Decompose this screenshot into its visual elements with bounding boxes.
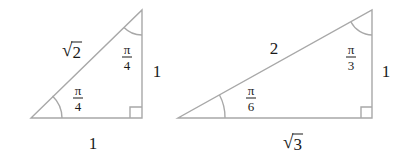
right-angle-marker-2 <box>361 107 372 118</box>
angle-arc-bottom-left-1 <box>53 96 63 118</box>
angle-arc-bottom-left-2 <box>220 95 226 118</box>
vertical-side-label-1: 1 <box>153 63 162 80</box>
hypotenuse-label-2: 2 <box>270 40 279 57</box>
hypotenuse-label-1: √2 <box>62 40 82 61</box>
right-angle-marker-1 <box>130 107 142 118</box>
vertical-side-label-2: 1 <box>382 63 391 80</box>
angle-label-bottom-left-2: π 6 <box>246 84 256 113</box>
base-label-2: √3 <box>283 132 303 153</box>
triangle-30-60-90 <box>178 10 372 118</box>
triangles-figure <box>0 0 411 165</box>
angle-label-top-1: π 4 <box>122 43 132 72</box>
base-label-1: 1 <box>89 135 98 152</box>
angle-arc-top-1 <box>124 28 142 36</box>
angle-label-bottom-left-1: π 4 <box>73 84 83 113</box>
triangle-2-outline <box>178 10 372 118</box>
angle-arc-top-2 <box>351 22 372 35</box>
angle-label-top-2: π 3 <box>346 43 356 72</box>
